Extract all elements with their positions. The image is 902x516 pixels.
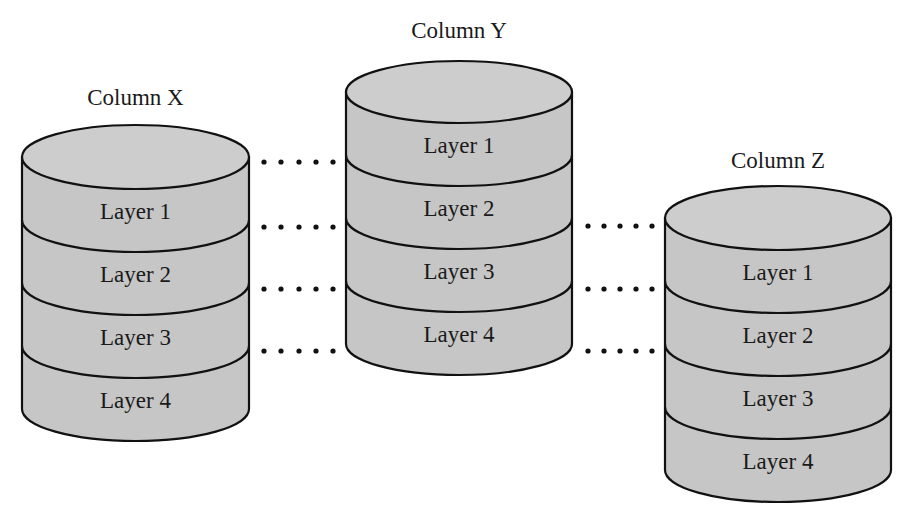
connector-dot — [261, 348, 266, 353]
connector-dot — [313, 224, 318, 229]
connector-x-to-y — [261, 159, 335, 353]
connector-dot — [617, 286, 622, 291]
connector-dot — [296, 348, 301, 353]
column-y-layer-3: Layer 3 — [424, 259, 495, 284]
connector-dot — [330, 348, 335, 353]
connector-dot — [313, 348, 318, 353]
connector-dot — [278, 348, 283, 353]
connector-dot — [649, 223, 654, 228]
connector-dot — [601, 348, 606, 353]
column-y-layer-2: Layer 2 — [424, 196, 495, 221]
connector-dot — [649, 348, 654, 353]
connector-dot — [278, 286, 283, 291]
cylinder-top — [346, 61, 572, 123]
connector-dot — [617, 223, 622, 228]
connector-dot — [261, 224, 266, 229]
column-y-layer-4: Layer 4 — [424, 322, 495, 347]
connector-dot — [278, 159, 283, 164]
connector-dot — [601, 223, 606, 228]
connector-dot — [330, 159, 335, 164]
column-z-layer-2: Layer 2 — [743, 323, 814, 348]
connector-dot — [585, 286, 590, 291]
connector-dot — [330, 224, 335, 229]
column-y-title: Column Y — [411, 18, 507, 43]
column-x-title: Column X — [87, 85, 184, 110]
diagram-canvas: Column X Layer 1 Layer 2 Layer 3 Layer 4… — [0, 0, 902, 516]
connector-dot — [296, 159, 301, 164]
connector-dot — [330, 286, 335, 291]
column-z-layer-1: Layer 1 — [743, 260, 814, 285]
column-x-layer-3: Layer 3 — [100, 325, 171, 350]
column-x-layer-2: Layer 2 — [100, 262, 171, 287]
column-z-layer-3: Layer 3 — [743, 386, 814, 411]
column-x: Column X Layer 1 Layer 2 Layer 3 Layer 4 — [22, 85, 249, 441]
connector-dot — [633, 348, 638, 353]
connector-dot — [313, 159, 318, 164]
cylinder-top — [22, 125, 249, 189]
connector-dot — [278, 224, 283, 229]
column-x-layer-1: Layer 1 — [100, 199, 171, 224]
connector-dot — [585, 348, 590, 353]
connector-dot — [261, 286, 266, 291]
connector-dot — [296, 224, 301, 229]
connector-dot — [313, 286, 318, 291]
connector-dot — [601, 286, 606, 291]
layered-columns-diagram: Column X Layer 1 Layer 2 Layer 3 Layer 4… — [0, 0, 902, 516]
connector-dot — [261, 159, 266, 164]
column-z-layer-4: Layer 4 — [743, 449, 814, 474]
cylinder-top — [665, 186, 891, 250]
connector-dot — [633, 223, 638, 228]
connector-dot — [617, 348, 622, 353]
column-y-layer-1: Layer 1 — [424, 133, 495, 158]
connector-dot — [585, 223, 590, 228]
column-z: Column Z Layer 1 Layer 2 Layer 3 Layer 4 — [665, 148, 891, 502]
connector-y-to-z — [585, 223, 654, 353]
column-y: Column Y Layer 1 Layer 2 Layer 3 Layer 4 — [346, 18, 572, 375]
connector-dot — [296, 286, 301, 291]
column-z-title: Column Z — [731, 148, 825, 173]
connector-dot — [633, 286, 638, 291]
connector-dot — [649, 286, 654, 291]
column-x-layer-4: Layer 4 — [100, 388, 171, 413]
